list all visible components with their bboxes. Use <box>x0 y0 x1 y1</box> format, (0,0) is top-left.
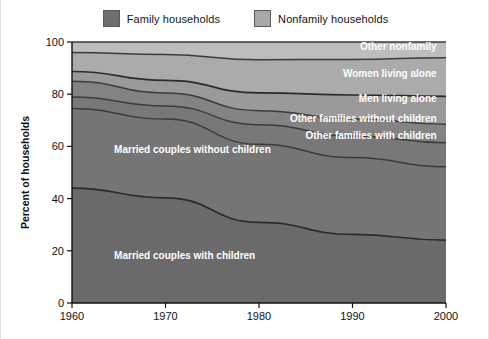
series-label: Men living alone <box>359 93 437 104</box>
series-label: Women living alone <box>343 68 437 79</box>
figure-frame: Family households Nonfamily households 0… <box>0 0 489 339</box>
x-tick-label: 1980 <box>247 310 271 322</box>
stacked-area-chart: 02040608010019601970198019902000Percent … <box>1 0 489 339</box>
series-label: Married couples with children <box>114 250 255 261</box>
y-tick-label: 20 <box>52 245 64 257</box>
series-label: Other families with children <box>305 130 436 141</box>
area-bands <box>72 42 446 303</box>
x-tick-label: 1970 <box>153 310 177 322</box>
chart-canvas: 02040608010019601970198019902000Percent … <box>1 0 489 339</box>
x-tick-label: 2000 <box>434 310 458 322</box>
x-tick-label: 1960 <box>60 310 84 322</box>
y-tick-label: 60 <box>52 140 64 152</box>
y-tick-label: 40 <box>52 193 64 205</box>
series-label: Married couples without children <box>114 144 271 155</box>
series-label: Other nonfamily <box>360 41 437 52</box>
y-axis-title: Percent of households <box>19 116 31 229</box>
y-tick-label: 100 <box>46 36 64 48</box>
y-tick-label: 80 <box>52 88 64 100</box>
x-tick-label: 1990 <box>340 310 364 322</box>
series-label: Other families without children <box>290 113 437 124</box>
y-tick-label: 0 <box>58 297 64 309</box>
